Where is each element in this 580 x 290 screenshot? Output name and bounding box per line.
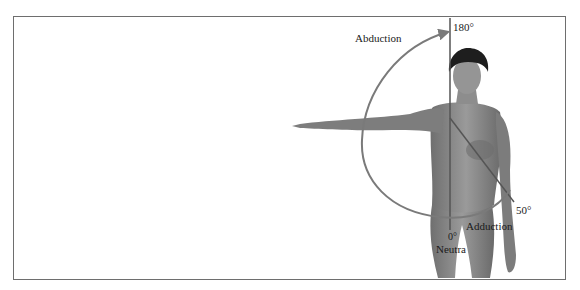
adduction-label: Adduction — [466, 221, 512, 232]
angle-50-label: 50° — [516, 205, 531, 216]
angle-180-label: 180° — [453, 22, 474, 33]
abduction-label: Abduction — [355, 33, 401, 44]
neutral-label: Neutral — [436, 244, 466, 255]
angle-0-label: 0° — [448, 232, 457, 242]
shoulder-range-of-motion-figure — [0, 0, 580, 290]
human-figure — [292, 48, 516, 278]
